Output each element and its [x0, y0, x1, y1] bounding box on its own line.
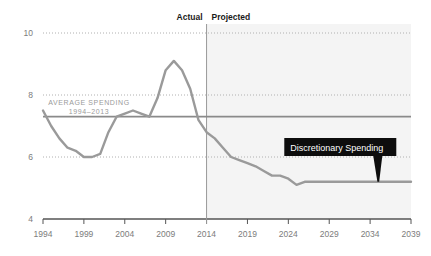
label-actual: Actual: [177, 12, 203, 22]
y-tick-label-6: 6: [28, 152, 33, 162]
x-tick-label-2024: 2024: [279, 229, 298, 239]
x-axis-tick-labels: 1994199920042009201420192024202920342039: [34, 229, 421, 239]
x-tick-label-2014: 2014: [197, 229, 216, 239]
chart-canvas: 10864 1994199920042009201420192024202920…: [0, 0, 431, 256]
x-tick-label-2029: 2029: [320, 229, 339, 239]
callout-label: Discretionary Spending: [290, 143, 383, 153]
y-tick-label-8: 8: [28, 90, 33, 100]
label-projected: Projected: [212, 12, 251, 22]
x-tick-label-1999: 1999: [74, 229, 93, 239]
x-tick-label-1994: 1994: [34, 229, 53, 239]
projected-region-shading: [207, 24, 411, 219]
x-tick-label-2019: 2019: [238, 229, 257, 239]
average-spending-label-line2: 1994–2013: [69, 108, 109, 115]
x-tick-label-2004: 2004: [115, 229, 134, 239]
y-tick-label-4: 4: [28, 214, 33, 224]
y-axis-tick-labels: 10864: [24, 28, 34, 224]
average-spending-label-line1: AVERAGE SPENDING: [48, 99, 129, 106]
discretionary-spending-chart: 10864 1994199920042009201420192024202920…: [0, 0, 431, 256]
x-tick-label-2009: 2009: [156, 229, 175, 239]
y-tick-label-10: 10: [24, 28, 34, 38]
x-tick-label-2039: 2039: [402, 229, 421, 239]
x-tick-label-2034: 2034: [361, 229, 380, 239]
